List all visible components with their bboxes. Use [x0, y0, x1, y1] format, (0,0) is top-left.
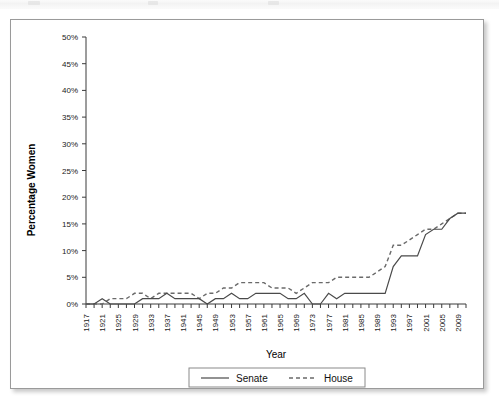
- y-tick-group: 0%5%10%15%20%25%30%35%40%45%50%: [62, 33, 86, 309]
- x-tick-label: 1925: [114, 313, 123, 331]
- y-axis-title: Percentage Women: [26, 144, 37, 237]
- x-tick-label: 1933: [147, 313, 156, 331]
- page-root: Percentage Women 0%5%10%15%20%25%30%35%4…: [0, 0, 499, 413]
- y-tick-label: 50%: [62, 33, 78, 42]
- figure-container: Percentage Women 0%5%10%15%20%25%30%35%4…: [10, 19, 484, 389]
- x-tick-label: 1973: [308, 313, 317, 331]
- y-tick-label: 15%: [62, 220, 78, 229]
- x-tick-label: 1949: [211, 313, 220, 331]
- x-tick-label: 1937: [163, 313, 172, 331]
- y-tick-label: 5%: [66, 273, 78, 282]
- x-tick-label: 2001: [422, 313, 431, 331]
- x-tick-label: 1917: [82, 313, 91, 331]
- legend-label-senate: Senate: [236, 373, 268, 384]
- line-chart: Percentage Women 0%5%10%15%20%25%30%35%4…: [11, 20, 483, 388]
- x-axis-title: Year: [266, 349, 287, 360]
- legend-label-house: House: [324, 373, 353, 384]
- x-tick-label: 1977: [325, 313, 334, 331]
- x-tick-label: 1981: [341, 313, 350, 331]
- x-tick-label: 1921: [98, 313, 107, 331]
- x-tick-label: 1989: [373, 313, 382, 331]
- x-tick-label: 1929: [131, 313, 140, 331]
- x-tick-label: 1965: [276, 313, 285, 331]
- y-tick-label: 25%: [62, 167, 78, 176]
- x-tick-label: 1993: [389, 313, 398, 331]
- x-tick-label: 1961: [260, 313, 269, 331]
- series-line-senate: [86, 213, 466, 304]
- x-tick-label: 1997: [405, 313, 414, 331]
- y-tick-label: 45%: [62, 60, 78, 69]
- x-tick-label: 2005: [438, 313, 447, 331]
- y-tick-label: 0%: [66, 300, 78, 309]
- y-tick-label: 10%: [62, 247, 78, 256]
- x-tick-group: 1917192119251929193319371941194519491953…: [82, 304, 466, 332]
- x-tick-label: 1941: [179, 313, 188, 331]
- chart-legend: Senate House: [189, 368, 365, 387]
- series-line-house: [86, 213, 466, 304]
- x-tick-label: 1945: [195, 313, 204, 331]
- y-tick-label: 40%: [62, 86, 78, 95]
- y-tick-label: 35%: [62, 113, 78, 122]
- x-tick-label: 1985: [357, 313, 366, 331]
- x-tick-label: 1957: [244, 313, 253, 331]
- y-tick-label: 20%: [62, 193, 78, 202]
- x-tick-label: 1969: [292, 313, 301, 331]
- x-tick-label: 1953: [228, 313, 237, 331]
- scan-artifact-strip: [0, 0, 499, 9]
- x-tick-label: 2009: [454, 313, 463, 331]
- y-tick-label: 30%: [62, 140, 78, 149]
